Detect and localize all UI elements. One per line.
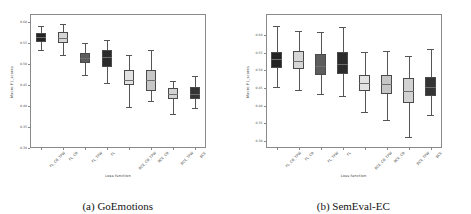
whisker-upper — [151, 50, 152, 70]
whisker-upper — [63, 24, 64, 32]
cap-upper — [60, 24, 66, 25]
x-tick-label: FL_CB_TPW — [49, 151, 66, 168]
x-tick-label: BCE_CB_TPW — [138, 151, 157, 170]
x-tick-label: FL_CB — [304, 151, 314, 161]
median-line — [190, 94, 200, 95]
x-tick-mark — [277, 148, 278, 150]
y-tick-mark — [264, 53, 266, 54]
median-line — [102, 57, 112, 58]
x-tick-mark — [85, 148, 86, 150]
whisker-lower — [151, 91, 152, 101]
median-line — [80, 58, 90, 59]
whisker-upper — [409, 56, 410, 79]
panel-semeval-ec: Macro F1_scores 0.300.350.400.450.500.55… — [236, 0, 471, 214]
caption-b: (b) SemEval-EC — [236, 200, 471, 212]
x-tick-label: BCE — [199, 151, 207, 159]
cap-lower — [427, 115, 433, 116]
whisker-lower — [409, 103, 410, 137]
cap-upper — [273, 26, 279, 27]
whisker-lower — [41, 42, 42, 49]
whisker-upper — [173, 81, 174, 88]
x-tick-label: BCE_TPW — [180, 151, 195, 166]
y-tick-label: 0.40 — [249, 104, 263, 108]
box-iqr — [36, 33, 46, 43]
y-tick-mark — [264, 35, 266, 36]
median-line — [359, 83, 369, 84]
cap-lower — [170, 114, 176, 115]
y-tick-label: 0.55 — [249, 51, 263, 55]
median-line — [271, 59, 281, 60]
x-tick-label: BCE_CB_TPW — [373, 151, 392, 170]
cap-lower — [192, 108, 198, 109]
y-tick-label: 0.30 — [249, 139, 263, 143]
whisker-upper — [41, 26, 42, 33]
whisker-lower — [129, 85, 130, 107]
y-tick-mark — [28, 85, 30, 86]
cap-lower — [60, 55, 66, 56]
median-line — [293, 61, 303, 62]
whisker-upper — [387, 51, 388, 75]
y-tick-mark — [28, 127, 30, 128]
y-tick-label: 0.40 — [13, 104, 27, 108]
x-tick-mark — [299, 148, 300, 150]
plot-frame-a — [30, 14, 206, 148]
whisker-upper — [365, 52, 366, 75]
cap-upper — [361, 52, 367, 53]
plot-area-a: Macro F1_scores 0.300.350.400.450.500.55… — [0, 0, 236, 186]
box-iqr — [102, 50, 112, 67]
box-iqr — [315, 54, 325, 75]
x-tick-mark — [343, 148, 344, 150]
y-tick-label: 0.35 — [13, 125, 27, 129]
y-tick-mark — [264, 123, 266, 124]
y-tick-mark — [264, 106, 266, 107]
y-tick-label: 0.30 — [13, 146, 27, 150]
cap-lower — [126, 107, 132, 108]
whisker-upper — [85, 43, 86, 53]
median-line — [146, 80, 156, 81]
cap-upper — [82, 43, 88, 44]
y-tick-mark — [264, 70, 266, 71]
y-tick-label: 0.35 — [249, 121, 263, 125]
x-tick-mark — [387, 148, 388, 150]
whisker-lower — [343, 74, 344, 96]
cap-upper — [148, 50, 154, 51]
whisker-lower — [365, 91, 366, 112]
whisker-lower — [107, 67, 108, 83]
y-tick-label: 0.45 — [13, 83, 27, 87]
x-tick-label: FL_TPW — [326, 151, 338, 163]
x-tick-mark — [151, 148, 152, 150]
whisker-upper — [129, 55, 130, 70]
x-tick-mark — [195, 148, 196, 150]
cap-lower — [361, 112, 367, 113]
x-tick-mark — [431, 148, 432, 150]
whisker-lower — [63, 43, 64, 55]
x-tick-label: FL_CB_TPW — [284, 151, 301, 168]
x-tick-label: FL_CB — [68, 151, 78, 161]
whisker-lower — [431, 96, 432, 115]
whisker-upper — [343, 27, 344, 52]
plot-frame-b — [266, 14, 442, 148]
caption-a: (a) GoEmotions — [0, 200, 236, 212]
y-tick-mark — [28, 64, 30, 65]
y-axis-label-a: Macro F1_scores — [10, 66, 14, 98]
median-line — [315, 66, 325, 67]
cap-lower — [104, 83, 110, 84]
x-tick-mark — [321, 148, 322, 150]
whisker-lower — [387, 94, 388, 120]
x-tick-label: BCE_CB — [157, 151, 170, 164]
plot-area-b: Macro F1_scores 0.300.350.400.450.500.55… — [236, 0, 471, 186]
x-axis-label-a: Loss function — [30, 174, 206, 178]
y-tick-label: 0.50 — [13, 62, 27, 66]
whisker-upper — [321, 32, 322, 55]
x-tick-label: FL — [346, 151, 352, 157]
x-tick-mark — [173, 148, 174, 150]
cap-lower — [295, 90, 301, 91]
cap-lower — [82, 75, 88, 76]
x-tick-mark — [409, 148, 410, 150]
whisker-lower — [195, 99, 196, 108]
cap-lower — [148, 101, 154, 102]
cap-upper — [339, 27, 345, 28]
x-axis-label-b: Loss function — [266, 174, 442, 178]
cap-upper — [126, 55, 132, 56]
whisker-lower — [299, 69, 300, 90]
